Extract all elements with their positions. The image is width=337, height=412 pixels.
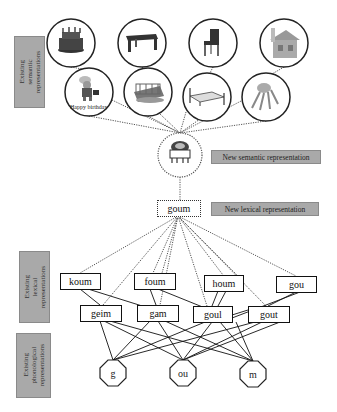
lexical-word-gam: gam (137, 305, 179, 322)
crib-icon (124, 68, 172, 116)
lexical-word-foum: foum (134, 273, 176, 290)
existing-phonological-label: Existing phonological representations (16, 333, 51, 398)
phoneme-m-label: m (249, 369, 257, 380)
lexical-word-houm: houm (204, 275, 244, 292)
new-lexical-label: New lexical representation (211, 202, 319, 216)
existing-lexical-label: Existing lexical representations (19, 251, 50, 323)
lexical-word-koum: koum (60, 273, 101, 290)
lobster-icon (242, 73, 290, 121)
existing-phonological-text: Existing phonological representations (22, 344, 46, 386)
table-icon (118, 19, 166, 67)
chair-icon (189, 19, 237, 67)
new-lexical-word: goum (157, 200, 201, 217)
phoneme-ou-label: ou (178, 368, 188, 379)
happy-birthday-caption: Happy birthday (70, 104, 108, 110)
existing-semantic-text: Existing semantic representations (18, 51, 42, 93)
existing-lexical-text: Existing lexical representations (23, 266, 47, 308)
lexical-word-gout: gout (248, 306, 290, 323)
new-semantic-node (158, 133, 202, 177)
lexical-word-geim: geim (80, 305, 122, 322)
lexical-word-gou: gou (276, 276, 317, 293)
phonological-links (80, 289, 300, 361)
bed-icon (183, 73, 231, 121)
lexical-word-goul: goul (193, 306, 233, 323)
new-semantic-label: New semantic representation (211, 150, 321, 164)
semantic-top-row (47, 19, 308, 67)
birthday-cake-icon (47, 19, 95, 67)
semantic-second-row (65, 68, 290, 121)
house-icon (260, 19, 308, 67)
phoneme-g-label: g (111, 368, 116, 379)
existing-semantic-label: Existing semantic representations (14, 36, 45, 108)
